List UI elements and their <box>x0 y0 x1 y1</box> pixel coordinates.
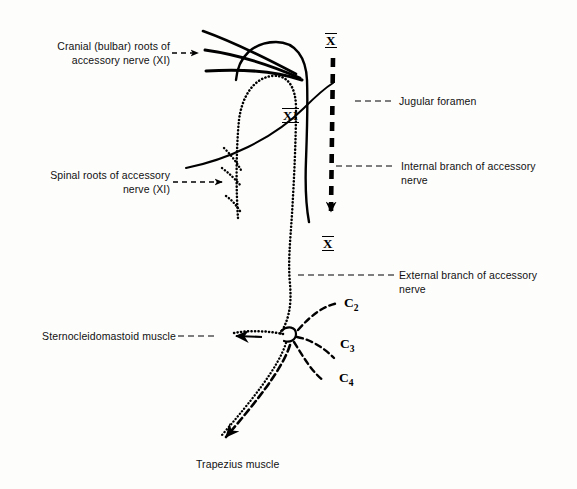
cervical-root-number: 2 <box>354 303 359 313</box>
label-cranial-roots: Cranial (bulbar) roots of accessory nerv… <box>18 39 170 67</box>
label-jugular-foramen: Jugular foramen <box>399 94 569 108</box>
diagram-vector-layer <box>0 0 577 489</box>
label-sternocleidomastoid: Sternocleidomastoid muscle <box>18 329 176 343</box>
branch-to-trapezius <box>222 343 290 437</box>
label-internal-branch: Internal branch of accessory nerve <box>401 159 569 187</box>
cervical-root-number: 3 <box>350 344 355 354</box>
cervical-root-label-c3: C3 <box>340 336 355 354</box>
accessory-nerve-solid-trunk <box>236 42 309 222</box>
vagus-marker-top: X <box>325 33 337 48</box>
jugular-foramen-curve <box>186 83 333 168</box>
sternocleidomastoid-arrowhead <box>236 336 262 337</box>
cervical-root-letter: C <box>339 370 349 385</box>
diagram-canvas: X XI X C2 C3 C4 Cranial (bulbar) roots o… <box>0 0 577 489</box>
cranial-roots-strands <box>203 31 302 80</box>
cervical-root-label-c2: C2 <box>344 295 359 313</box>
cervical-root-letter: C <box>340 336 350 351</box>
label-external-branch: External branch of accessory nerve <box>399 268 569 296</box>
vagus-nerve-dashed-line <box>331 58 333 212</box>
label-spinal-roots: Spinal roots of accessory nerve (XI) <box>18 168 170 196</box>
cervical-root-number: 4 <box>349 378 354 388</box>
vagus-marker-bottom: X <box>322 236 334 251</box>
accessory-marker-xi: XI <box>282 108 299 123</box>
cervical-root-label-c4: C4 <box>339 370 354 388</box>
cervical-root-c2-curve <box>298 303 338 330</box>
branch-to-sternocleidomastoid <box>234 331 283 334</box>
label-trapezius: Trapezius muscle <box>196 457 356 471</box>
cervical-root-letter: C <box>344 295 354 310</box>
cervical-root-c4-curve <box>294 342 324 381</box>
